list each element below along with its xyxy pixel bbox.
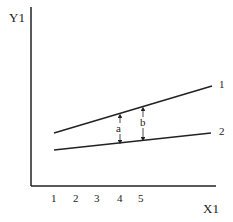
arrow-b-label: b (140, 117, 146, 128)
line-1 (54, 86, 212, 133)
diagram-canvas (0, 0, 233, 222)
diagram: Y1 X1 1 2 3 4 5 1 2 a b (0, 0, 233, 222)
line-1-label: 1 (219, 79, 225, 90)
line-2 (54, 133, 211, 150)
x-axis-label: X1 (203, 202, 219, 215)
x-tick: 5 (138, 193, 144, 204)
x-tick: 3 (94, 193, 100, 204)
x-tick: 1 (51, 193, 57, 204)
line-2-label: 2 (219, 126, 225, 137)
arrow-a-label: a (116, 123, 121, 134)
x-tick: 2 (73, 193, 79, 204)
y-axis-label: Y1 (9, 11, 25, 24)
x-tick: 4 (117, 193, 123, 204)
